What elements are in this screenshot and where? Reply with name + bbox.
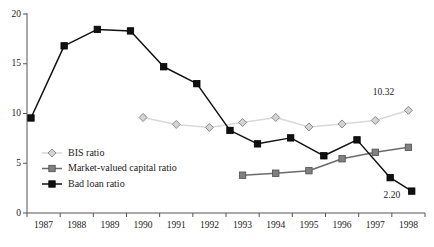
x-axis-tick-label: 1992 bbox=[200, 220, 219, 230]
data-point-marker bbox=[339, 156, 345, 162]
x-axis-tick-label: 1988 bbox=[67, 220, 86, 230]
data-point-marker bbox=[28, 115, 34, 121]
legend-filled-square-icon bbox=[49, 181, 55, 187]
x-axis-tick-label: 1996 bbox=[333, 220, 352, 230]
data-point-marker bbox=[127, 28, 133, 34]
data-point-marker bbox=[61, 43, 67, 49]
x-axis-tick-label: 1990 bbox=[134, 220, 153, 230]
data-point-marker bbox=[273, 170, 279, 176]
y-axis-tick-label: 5 bbox=[16, 158, 21, 168]
data-point-marker bbox=[405, 144, 411, 150]
y-axis-tick-label: 0 bbox=[16, 208, 21, 218]
bad-loan-end-value-label: 2.20 bbox=[384, 190, 401, 200]
legend-label: Bad loan ratio bbox=[68, 178, 125, 189]
y-axis-tick-label: 20 bbox=[12, 9, 22, 19]
x-axis-tick-label: 1993 bbox=[233, 220, 252, 230]
data-point-marker bbox=[227, 127, 233, 133]
data-point-marker bbox=[160, 64, 166, 70]
bis-end-value-label: 10.32 bbox=[373, 87, 395, 97]
data-point-marker bbox=[409, 188, 415, 194]
x-axis-tick-label: 1994 bbox=[266, 220, 285, 230]
legend-square-icon bbox=[49, 165, 55, 171]
x-axis-tick-label: 1991 bbox=[167, 220, 186, 230]
x-axis-tick-label: 1998 bbox=[399, 220, 418, 230]
chart-canvas: 0510152019871988198919901991199219931994… bbox=[0, 0, 434, 247]
x-axis-tick-label: 1997 bbox=[366, 220, 385, 230]
data-point-marker bbox=[239, 172, 245, 178]
data-point-marker bbox=[372, 149, 378, 155]
data-point-marker bbox=[306, 168, 312, 174]
data-point-marker bbox=[194, 80, 200, 86]
x-axis-tick-label: 1987 bbox=[34, 220, 53, 230]
data-point-marker bbox=[387, 174, 393, 180]
x-axis-tick-label: 1995 bbox=[299, 220, 318, 230]
line-chart: 0510152019871988198919901991199219931994… bbox=[0, 0, 434, 247]
chart-background bbox=[0, 0, 434, 247]
data-point-marker bbox=[254, 141, 260, 147]
data-point-marker bbox=[287, 135, 293, 141]
y-axis-tick-label: 10 bbox=[12, 108, 22, 118]
data-point-marker bbox=[354, 137, 360, 143]
data-point-marker bbox=[321, 153, 327, 159]
legend-label: Market-valued capital ratio bbox=[68, 162, 177, 173]
legend-label: BIS ratio bbox=[68, 147, 104, 158]
y-axis-tick-label: 15 bbox=[12, 58, 22, 68]
data-point-marker bbox=[94, 26, 100, 32]
x-axis-tick-label: 1989 bbox=[100, 220, 119, 230]
